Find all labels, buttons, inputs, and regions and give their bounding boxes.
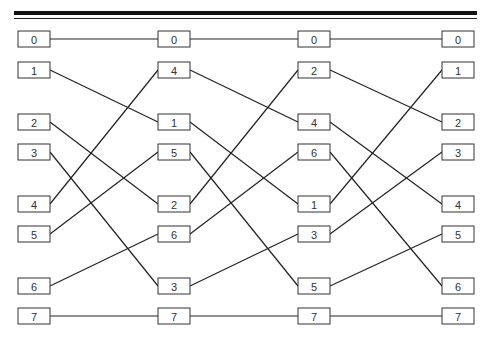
node-label: 5 [31,229,37,241]
node-box: 4 [298,114,330,130]
node-label: 0 [311,34,317,46]
node-label: 1 [311,199,317,211]
edge-0-6 [50,234,158,286]
network-diagram: 01234567041526370246135701234567 [0,0,488,342]
edges-layer [50,39,442,316]
edge-0-5 [50,152,158,234]
node-box: 5 [18,226,50,242]
node-box: 0 [158,31,190,47]
node-label: 6 [31,281,37,293]
node-label: 7 [455,311,461,323]
node-label: 0 [31,34,37,46]
node-box: 6 [442,278,474,294]
node-label: 1 [31,65,37,77]
edge-1-6 [190,152,298,234]
edge-2-3 [330,152,442,234]
node-box: 3 [298,226,330,242]
node-label: 7 [171,311,177,323]
edge-1-5 [190,152,298,286]
node-box: 4 [442,196,474,212]
edge-1-4 [190,70,298,122]
node-box: 7 [18,308,50,324]
node-box: 5 [298,278,330,294]
node-label: 3 [311,229,317,241]
edge-2-5 [330,234,442,286]
node-label: 7 [311,311,317,323]
edge-0-1 [50,70,158,122]
node-label: 2 [311,65,317,77]
node-label: 1 [171,117,177,129]
node-box: 3 [442,144,474,160]
node-label: 4 [455,199,461,211]
edge-2-6 [330,152,442,286]
node-label: 3 [171,281,177,293]
node-label: 6 [455,281,461,293]
edge-1-1 [190,122,298,204]
node-label: 2 [455,117,461,129]
edge-2-2 [330,70,442,122]
node-label: 5 [311,281,317,293]
node-box: 7 [298,308,330,324]
edge-0-3 [50,152,158,286]
node-label: 3 [31,147,37,159]
node-label: 0 [171,34,177,46]
edge-0-2 [50,122,158,204]
edge-1-2 [190,70,298,204]
node-label: 4 [171,65,177,77]
node-box: 6 [158,226,190,242]
node-box: 2 [298,62,330,78]
node-label: 0 [455,34,461,46]
node-box: 4 [18,196,50,212]
node-label: 2 [31,117,37,129]
node-box: 6 [18,278,50,294]
node-box: 2 [18,114,50,130]
node-box: 0 [298,31,330,47]
node-label: 3 [455,147,461,159]
node-box: 0 [442,31,474,47]
node-label: 6 [171,229,177,241]
node-label: 7 [31,311,37,323]
node-box: 5 [442,226,474,242]
node-box: 1 [18,62,50,78]
edge-0-4 [50,70,158,204]
node-label: 6 [311,147,317,159]
node-label: 1 [455,65,461,77]
edge-2-1 [330,70,442,204]
node-label: 2 [171,199,177,211]
node-box: 5 [158,144,190,160]
node-box: 1 [298,196,330,212]
node-box: 2 [442,114,474,130]
edge-1-3 [190,234,298,286]
node-box: 1 [158,114,190,130]
node-box: 1 [442,62,474,78]
node-box: 7 [158,308,190,324]
edge-2-4 [330,122,442,204]
node-box: 3 [158,278,190,294]
node-label: 4 [311,117,317,129]
node-box: 2 [158,196,190,212]
node-box: 4 [158,62,190,78]
node-box: 7 [442,308,474,324]
node-box: 6 [298,144,330,160]
node-box: 3 [18,144,50,160]
node-label: 5 [171,147,177,159]
node-label: 5 [455,229,461,241]
node-label: 4 [31,199,37,211]
node-box: 0 [18,31,50,47]
